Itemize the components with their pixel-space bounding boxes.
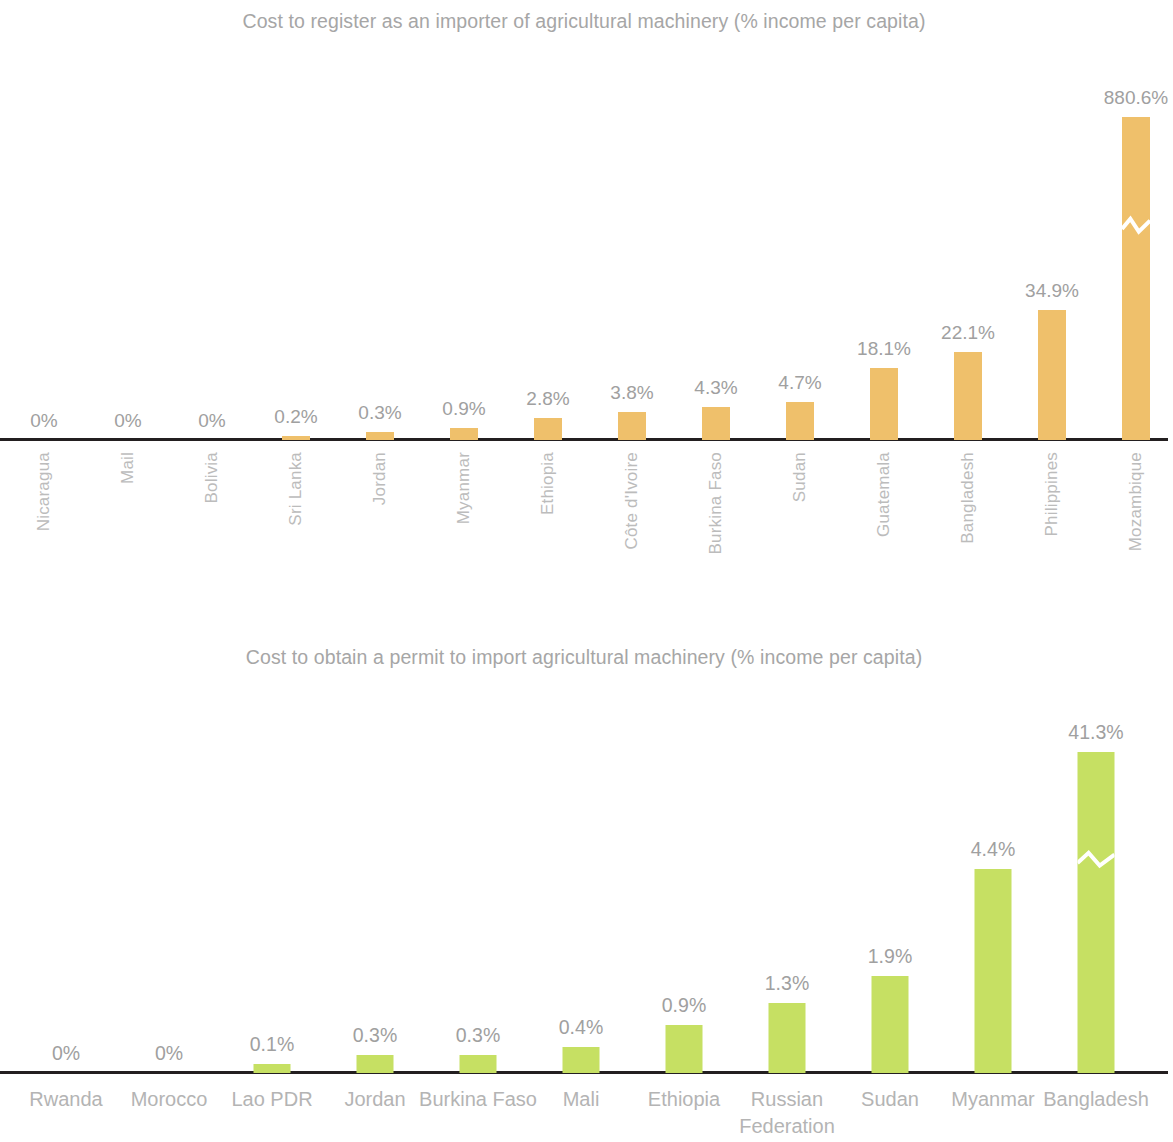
bar[interactable] xyxy=(872,976,909,1073)
x-tick-label-text: Rwanda xyxy=(7,1086,125,1113)
bar-slot[interactable]: 0.3% xyxy=(427,698,530,1073)
bar-value-label: 1.3% xyxy=(765,972,809,995)
bar[interactable] xyxy=(450,428,478,440)
bar-value-label: 0.2% xyxy=(274,406,317,428)
bar-slot[interactable]: 4.4% xyxy=(942,698,1045,1073)
bar[interactable] xyxy=(769,1003,806,1073)
bar-slot[interactable]: 0.1% xyxy=(221,698,324,1073)
bar-slot[interactable]: 0% xyxy=(2,60,86,440)
bar[interactable] xyxy=(366,432,394,440)
bar-slot[interactable]: 2.8% xyxy=(506,60,590,440)
x-tick-label-text: Philippines xyxy=(1042,452,1062,536)
bar[interactable] xyxy=(870,368,898,440)
x-tick-label: Myanmar xyxy=(422,452,506,592)
x-tick-label: Bangladesh xyxy=(926,452,1010,592)
bar[interactable] xyxy=(357,1055,394,1073)
bar-slot[interactable]: 0.9% xyxy=(633,698,736,1073)
x-tick-label: Burkina Faso xyxy=(427,1086,530,1142)
x-tick-label-text: Jordan xyxy=(316,1086,434,1113)
x-tick-label-text: Bangladesh xyxy=(958,452,978,544)
bar-slot[interactable]: 4.7% xyxy=(758,60,842,440)
x-tick-label-text: Sri Lanka xyxy=(286,452,306,526)
bar-slot[interactable]: 0.3% xyxy=(338,60,422,440)
x-tick-label: Lao PDR xyxy=(221,1086,324,1142)
bar[interactable] xyxy=(1078,752,1115,1073)
bar-value-label: 4.3% xyxy=(694,377,737,399)
bar-slot[interactable]: 0% xyxy=(118,698,221,1073)
x-tick-label: Jordan xyxy=(324,1086,427,1142)
bar-slot[interactable]: 0% xyxy=(15,698,118,1073)
x-tick-label: Ethiopia xyxy=(633,1086,736,1142)
bar[interactable] xyxy=(563,1047,600,1073)
bar-slot[interactable]: 22.1% xyxy=(926,60,1010,440)
bar-slot[interactable]: 0.3% xyxy=(324,698,427,1073)
bar-value-label: 0.3% xyxy=(456,1024,500,1047)
bar-slot[interactable]: 3.8% xyxy=(590,60,674,440)
bar[interactable] xyxy=(534,418,562,440)
chart-title-register-importer: Cost to register as an importer of agric… xyxy=(0,10,1168,33)
x-tick-label: Jordan xyxy=(338,452,422,592)
bar-slot[interactable]: 34.9% xyxy=(1010,60,1094,440)
x-tick-label-text: Myanmar xyxy=(454,452,474,524)
bar-slot[interactable]: 41.3% xyxy=(1045,698,1148,1073)
x-tick-label-text: Guatemala xyxy=(874,452,894,537)
x-tick-label: Myanmar xyxy=(942,1086,1045,1142)
x-tick-label-text: Ethiopia xyxy=(625,1086,743,1113)
x-tick-label-text: Russian Federation xyxy=(728,1086,846,1140)
chart-panel-import-permit: Cost to obtain a permit to import agricu… xyxy=(0,628,1168,1142)
x-tick-label-text: Myanmar xyxy=(934,1086,1052,1113)
bar-slot[interactable]: 0% xyxy=(170,60,254,440)
bar-slot[interactable]: 880.6% xyxy=(1094,60,1173,440)
x-tick-label: Morocco xyxy=(118,1086,221,1142)
x-tick-label: Russian Federation xyxy=(736,1086,839,1142)
x-tick-label-text: Lao PDR xyxy=(213,1086,331,1113)
bar-value-label: 0% xyxy=(52,1042,80,1065)
bar-value-label: 22.1% xyxy=(941,322,995,344)
bar-value-label: 34.9% xyxy=(1025,280,1079,302)
bar-value-label: 0.9% xyxy=(662,994,706,1017)
bar-value-label: 0.9% xyxy=(442,398,485,420)
x-tick-label-text: Burkina Faso xyxy=(419,1086,537,1113)
x-tick-label: Mali xyxy=(530,1086,633,1142)
bar-slot[interactable]: 1.9% xyxy=(839,698,942,1073)
x-tick-label-text: Mali xyxy=(522,1086,640,1113)
x-tick-label-text: Ethiopia xyxy=(538,452,558,515)
bar[interactable] xyxy=(786,402,814,440)
bar[interactable] xyxy=(618,412,646,440)
bar-value-label: 0% xyxy=(198,410,225,432)
bar-slot[interactable]: 0.4% xyxy=(530,698,633,1073)
bar-value-label: 3.8% xyxy=(610,382,653,404)
bar-slot[interactable]: 1.3% xyxy=(736,698,839,1073)
bar[interactable] xyxy=(954,352,982,440)
bar[interactable] xyxy=(702,407,730,440)
bar-slot[interactable]: 4.3% xyxy=(674,60,758,440)
bar[interactable] xyxy=(1038,310,1066,440)
bar-value-label: 0% xyxy=(30,410,57,432)
x-tick-label: Guatemala xyxy=(842,452,926,592)
bar-value-label: 4.7% xyxy=(778,372,821,394)
bar[interactable] xyxy=(282,436,310,440)
bar[interactable] xyxy=(975,869,1012,1073)
x-tick-label-text: Mozambique xyxy=(1126,452,1146,551)
bar[interactable] xyxy=(1122,117,1150,440)
x-tick-label: Rwanda xyxy=(15,1086,118,1142)
x-tick-label: Mozambique xyxy=(1094,452,1173,592)
bar-value-label: 880.6% xyxy=(1104,87,1168,109)
x-tick-label-text: Jordan xyxy=(370,452,390,505)
bar-slot[interactable]: 0% xyxy=(86,60,170,440)
bar-slot[interactable]: 0.9% xyxy=(422,60,506,440)
bar-value-label: 0% xyxy=(155,1042,183,1065)
x-tick-label-text: Côte d'Ivoire xyxy=(622,452,642,550)
chart-title-import-permit: Cost to obtain a permit to import agricu… xyxy=(0,646,1168,669)
bar-slot[interactable]: 0.2% xyxy=(254,60,338,440)
x-tick-label-text: Sudan xyxy=(790,452,810,502)
x-tick-label-text: Burkina Faso xyxy=(706,452,726,555)
plot-area-register-importer: 0%0%0%0.2%0.3%0.9%2.8%3.8%4.3%4.7%18.1%2… xyxy=(0,60,1168,440)
bar[interactable] xyxy=(666,1025,703,1073)
bar[interactable] xyxy=(460,1055,497,1073)
bar[interactable] xyxy=(254,1064,291,1073)
x-tick-label: Sri Lanka xyxy=(254,452,338,592)
x-tick-label-text: Sudan xyxy=(831,1086,949,1113)
bar-slot[interactable]: 18.1% xyxy=(842,60,926,440)
plot-area-import-permit: 0%0%0.1%0.3%0.3%0.4%0.9%1.3%1.9%4.4%41.3… xyxy=(0,698,1168,1073)
